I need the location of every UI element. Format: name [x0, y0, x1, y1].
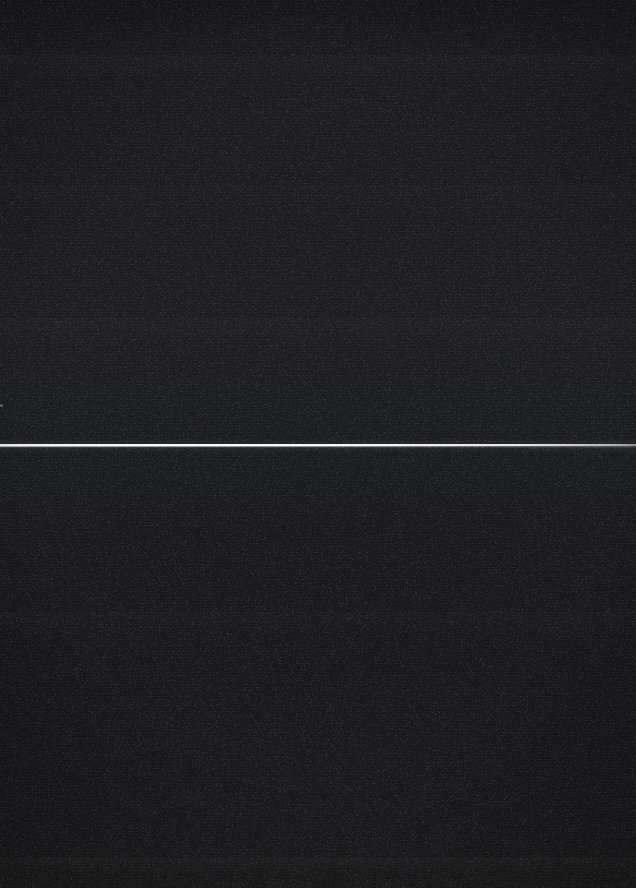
- screen-capture: Blank dark screen capture containing no …: [0, 0, 636, 888]
- background-field-upper: [0, 0, 636, 445]
- background-field-lower: [0, 445, 636, 888]
